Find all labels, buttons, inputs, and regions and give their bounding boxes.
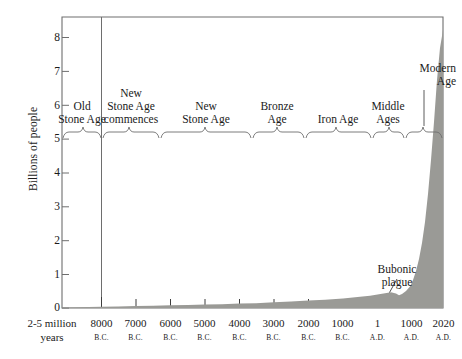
y-tick-label-7: 7	[42, 66, 60, 78]
x-tick-line2: years	[40, 331, 63, 343]
era-line2: Age	[267, 113, 286, 125]
annotation-line1: Bubonic	[378, 263, 417, 275]
x-tick-line1: 2-5 million	[27, 317, 76, 329]
chart-plot-area	[0, 0, 462, 359]
x-tick-value: 7000	[125, 317, 147, 329]
era-line1: New	[195, 100, 217, 112]
era-label-new-stone-age: New Stone Age	[170, 100, 242, 126]
era-line1: Iron Age	[318, 113, 359, 125]
era-brackets	[63, 127, 442, 138]
x-tick-value: 1	[375, 317, 381, 329]
y-tick-label-1: 1	[42, 269, 60, 281]
y-tick-label-5: 5	[42, 133, 60, 145]
y-tick-label-8: 8	[42, 32, 60, 44]
era-label-new-stone-age-commences: New Stone Age commences	[95, 87, 167, 126]
x-tick-value: 5000	[194, 317, 216, 329]
era-line1: New	[120, 87, 142, 99]
y-tick-marks	[62, 38, 69, 309]
x-tick-value: 3000	[263, 317, 285, 329]
era-line2: Stone Age	[182, 113, 230, 125]
era-line1: Bronze	[260, 100, 293, 112]
y-tick-label-2: 2	[42, 235, 60, 247]
era-label-bronze-age: Bronze Age	[244, 100, 310, 126]
era-line1: Old	[73, 100, 90, 112]
annotation-line2: plague	[382, 276, 413, 288]
x-tick-era: A.D.	[418, 332, 462, 345]
era-line1: Middle	[371, 100, 404, 112]
era-line1: Modern	[420, 62, 456, 74]
y-tick-label-0: 0	[42, 302, 60, 314]
annotation-bubonic-plague: Bubonic plague	[363, 263, 431, 289]
era-line2: Age	[437, 75, 456, 87]
x-tick-value: 2020	[433, 317, 455, 329]
population-growth-chart: Billions of people 8 7 6 5 4 3 2 1 0 2-5…	[0, 0, 462, 359]
y-tick-label-3: 3	[42, 201, 60, 213]
x-tick-value: 1000	[332, 317, 354, 329]
era-line3: commences	[104, 113, 158, 125]
x-tick-label-2020ad: 2020 A.D.	[418, 317, 462, 345]
era-label-modern-age: Modern Age	[396, 62, 456, 88]
era-label-middle-ages: Middle Ages	[358, 100, 418, 126]
era-line2: Ages	[376, 113, 400, 125]
y-tick-label-4: 4	[42, 167, 60, 179]
era-line2: Stone Age	[107, 100, 155, 112]
y-axis-title: Billions of people	[27, 69, 39, 229]
